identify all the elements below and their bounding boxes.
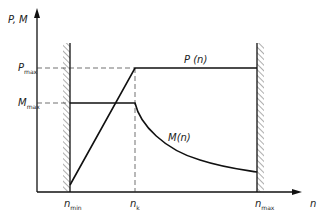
- y-axis: [34, 8, 40, 192]
- x-axis-label: n: [310, 198, 316, 209]
- wall-n-max: [257, 43, 264, 192]
- x-axis-arrow-icon: [292, 189, 302, 195]
- y-axis-label: P, M: [8, 14, 28, 25]
- power-torque-diagram: P, M n Pmax Mmax nmin nk nmax P (n) M(n): [0, 0, 328, 218]
- tick-n-min: nmin: [64, 198, 82, 211]
- reference-lines: [37, 68, 135, 192]
- m-curve: [70, 103, 257, 172]
- tick-p-max: Pmax: [18, 62, 38, 75]
- y-axis-arrow-icon: [34, 8, 40, 18]
- tick-n-k: nk: [130, 198, 140, 211]
- m-curve-label: M(n): [168, 132, 191, 143]
- p-curve-label: P (n): [184, 54, 207, 65]
- wall-n-min: [63, 43, 70, 192]
- tick-n-max: nmax: [255, 198, 275, 211]
